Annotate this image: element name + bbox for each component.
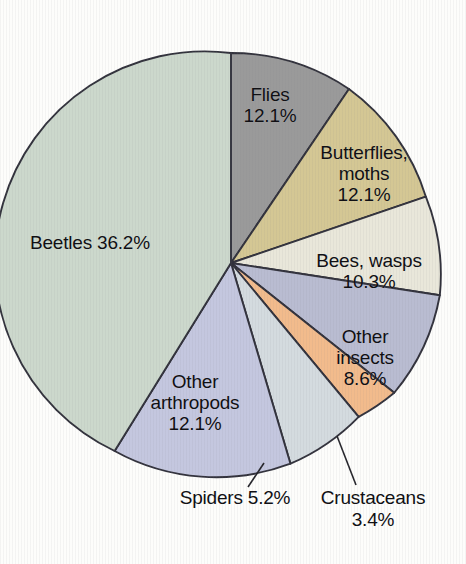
pie-label-flies: Flies 12.1% <box>215 84 325 126</box>
pie-label-beetles: Beetles 36.2% <box>30 232 195 253</box>
pie-label-bees-wasps: Bees, wasps 10.3% <box>299 250 439 292</box>
pie-label-butterflies-moths: Butterflies, moths 12.1% <box>297 142 431 205</box>
pie-label-spiders: Spiders 5.2% <box>176 487 294 509</box>
pie-label-other-insects: Other insects 8.6% <box>309 326 421 389</box>
pie-chart-figure: Beetles 36.2% Flies 12.1% Butterflies, m… <box>0 0 466 564</box>
pie-label-crustaceans: Crustaceans 3.4% <box>299 487 447 531</box>
leader-line-crustaceans <box>337 436 356 485</box>
pie-label-other-arthropods: Other arthropods 12.1% <box>127 371 263 434</box>
